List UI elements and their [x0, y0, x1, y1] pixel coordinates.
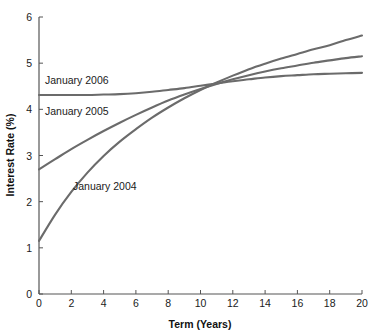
chart-background [0, 0, 378, 336]
x-tick-label: 10 [195, 297, 207, 309]
y-tick-label: 0 [26, 288, 32, 300]
x-tick-label: 12 [227, 297, 239, 309]
x-tick-label: 8 [165, 297, 171, 309]
y-tick-label: 2 [26, 196, 32, 208]
y-tick-label: 3 [26, 150, 32, 162]
y-tick-label: 5 [26, 57, 32, 69]
x-tick-label: 20 [356, 297, 368, 309]
x-tick-label: 2 [68, 297, 74, 309]
x-tick-label: 6 [133, 297, 139, 309]
chart-canvas: 02468101214161820 0123456 January 2006Ja… [0, 0, 378, 336]
series-annotation-january-2004: January 2004 [73, 180, 137, 192]
y-tick-label: 1 [26, 242, 32, 254]
series-annotation-january-2005: January 2005 [45, 105, 109, 117]
x-axis-title: Term (Years) [169, 318, 232, 330]
y-tick-label: 4 [26, 103, 32, 115]
x-tick-label: 14 [259, 297, 271, 309]
y-axis-title: Interest Rate (%) [4, 114, 16, 197]
x-tick-label: 16 [292, 297, 304, 309]
y-tick-label: 6 [26, 11, 32, 23]
x-tick-label: 18 [324, 297, 336, 309]
x-tick-label: 0 [36, 297, 42, 309]
x-tick-label: 4 [101, 297, 107, 309]
series-annotation-january-2006: January 2006 [45, 74, 109, 86]
yield-curve-chart: 02468101214161820 0123456 January 2006Ja… [0, 0, 378, 336]
